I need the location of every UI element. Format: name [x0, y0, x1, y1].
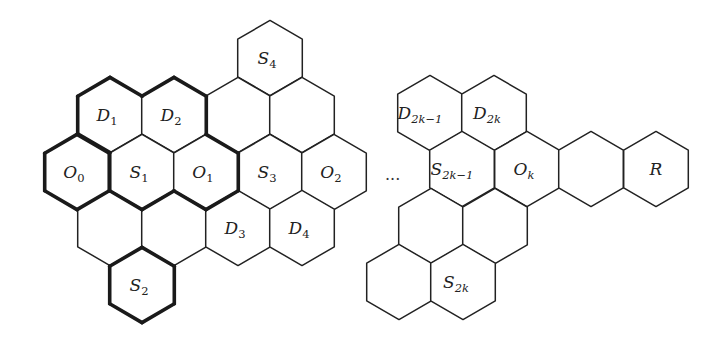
hex-cell-empty-e — [559, 131, 624, 206]
ellipsis-separator: ··· — [385, 170, 400, 189]
cell-label-r: R — [649, 159, 663, 179]
hex-board-diagram: S4D1D2O0S1O1S3O2D3D4S2D2k−1D2kS2k−1OkRS2… — [0, 0, 719, 341]
